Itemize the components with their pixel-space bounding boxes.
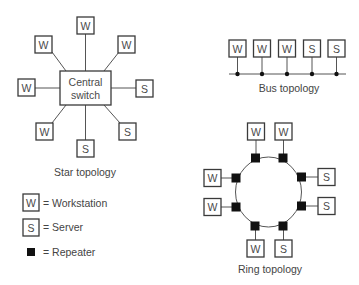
repeater-icon bbox=[279, 222, 288, 231]
legend-repeater-text: = Repeater bbox=[43, 246, 96, 258]
workstation-label: W bbox=[251, 126, 261, 138]
ring-node-bottom-right: S bbox=[275, 240, 292, 257]
server-label: S bbox=[141, 83, 148, 95]
ring-node-bottom-left: W bbox=[247, 240, 264, 257]
server-label: S bbox=[124, 126, 131, 138]
star-node-right: S bbox=[136, 80, 153, 97]
star-node-bottom: S bbox=[77, 140, 94, 157]
ring-repeaters bbox=[232, 154, 307, 231]
central-switch-label-line1: Central bbox=[69, 76, 103, 88]
workstation-label: W bbox=[39, 39, 49, 51]
bus-tap-icon bbox=[285, 72, 289, 76]
bus-tap-icon bbox=[310, 72, 314, 76]
star-topology-caption: Star topology bbox=[54, 166, 117, 178]
legend-workstation-text: = Workstation bbox=[43, 197, 107, 209]
ring-node-top-right: W bbox=[275, 123, 292, 140]
legend-repeater: = Repeater bbox=[27, 246, 96, 258]
workstation-label: W bbox=[81, 20, 91, 32]
repeater-icon bbox=[251, 154, 260, 163]
ring-cable bbox=[236, 157, 302, 227]
star-link-top-left bbox=[52, 52, 66, 71]
workstation-label: W bbox=[233, 43, 243, 55]
bus-topology: W W W S S Bus topology bbox=[229, 40, 346, 94]
legend: W = Workstation S = Server = Repeater bbox=[23, 194, 107, 258]
bus-tap-icon bbox=[235, 72, 239, 76]
bus-tap-icon bbox=[260, 72, 264, 76]
server-label: S bbox=[82, 143, 89, 155]
legend-workstation-symbol: W bbox=[26, 197, 36, 209]
star-node-top-left: W bbox=[35, 36, 52, 53]
bus-node: S bbox=[304, 40, 321, 76]
star-link-top-right bbox=[104, 52, 119, 71]
workstation-label: W bbox=[22, 82, 32, 94]
server-label: S bbox=[308, 43, 315, 55]
workstation-label: W bbox=[251, 243, 261, 255]
ring-node-left-upper: W bbox=[204, 170, 221, 187]
server-label: S bbox=[323, 200, 330, 212]
bus-node: W bbox=[279, 40, 296, 76]
repeater-icon bbox=[251, 222, 260, 231]
workstation-label: W bbox=[208, 172, 218, 184]
repeater-icon bbox=[297, 202, 306, 211]
legend-server: S = Server bbox=[23, 219, 83, 236]
workstation-label: W bbox=[279, 126, 289, 138]
bus-node: W bbox=[254, 40, 271, 76]
star-node-bottom-right: S bbox=[119, 123, 136, 140]
ring-node-top-left: W bbox=[248, 123, 265, 140]
star-node-bottom-left: W bbox=[36, 123, 53, 140]
network-topologies-diagram: Central switch W W W W S W bbox=[0, 0, 359, 285]
server-label: S bbox=[280, 243, 287, 255]
workstation-label: W bbox=[208, 201, 218, 213]
legend-server-text: = Server bbox=[43, 221, 83, 233]
server-label: S bbox=[333, 43, 340, 55]
star-node-top: W bbox=[77, 17, 94, 34]
star-link-bottom-left bbox=[52, 105, 66, 123]
ring-node-right-lower: S bbox=[318, 198, 335, 215]
ring-node-right-upper: S bbox=[318, 169, 335, 186]
bus-node: S bbox=[328, 40, 345, 76]
workstation-label: W bbox=[40, 126, 50, 138]
repeater-icon bbox=[297, 173, 306, 182]
bus-tap-icon bbox=[334, 72, 338, 76]
star-node-left: W bbox=[18, 79, 35, 96]
repeater-icon bbox=[279, 154, 288, 163]
workstation-label: W bbox=[282, 43, 292, 55]
repeater-symbol-icon bbox=[27, 248, 35, 256]
star-node-top-right: W bbox=[118, 36, 135, 53]
central-switch: Central switch bbox=[60, 71, 111, 105]
repeater-icon bbox=[232, 203, 241, 212]
star-link-bottom-right bbox=[104, 105, 120, 123]
workstation-label: W bbox=[257, 43, 267, 55]
server-label: S bbox=[323, 171, 330, 183]
bus-node: W bbox=[229, 40, 246, 76]
legend-server-symbol: S bbox=[27, 222, 34, 234]
ring-node-left-lower: W bbox=[204, 199, 221, 216]
repeater-icon bbox=[232, 174, 241, 183]
star-topology: Central switch W W W W S W bbox=[18, 17, 153, 178]
ring-topology-caption: Ring topology bbox=[238, 263, 303, 275]
ring-topology: W W S S S W W W Ring topology bbox=[204, 123, 335, 275]
legend-workstation: W = Workstation bbox=[23, 194, 107, 211]
bus-topology-caption: Bus topology bbox=[259, 82, 320, 94]
central-switch-label-line2: switch bbox=[71, 89, 100, 101]
workstation-label: W bbox=[122, 39, 132, 51]
